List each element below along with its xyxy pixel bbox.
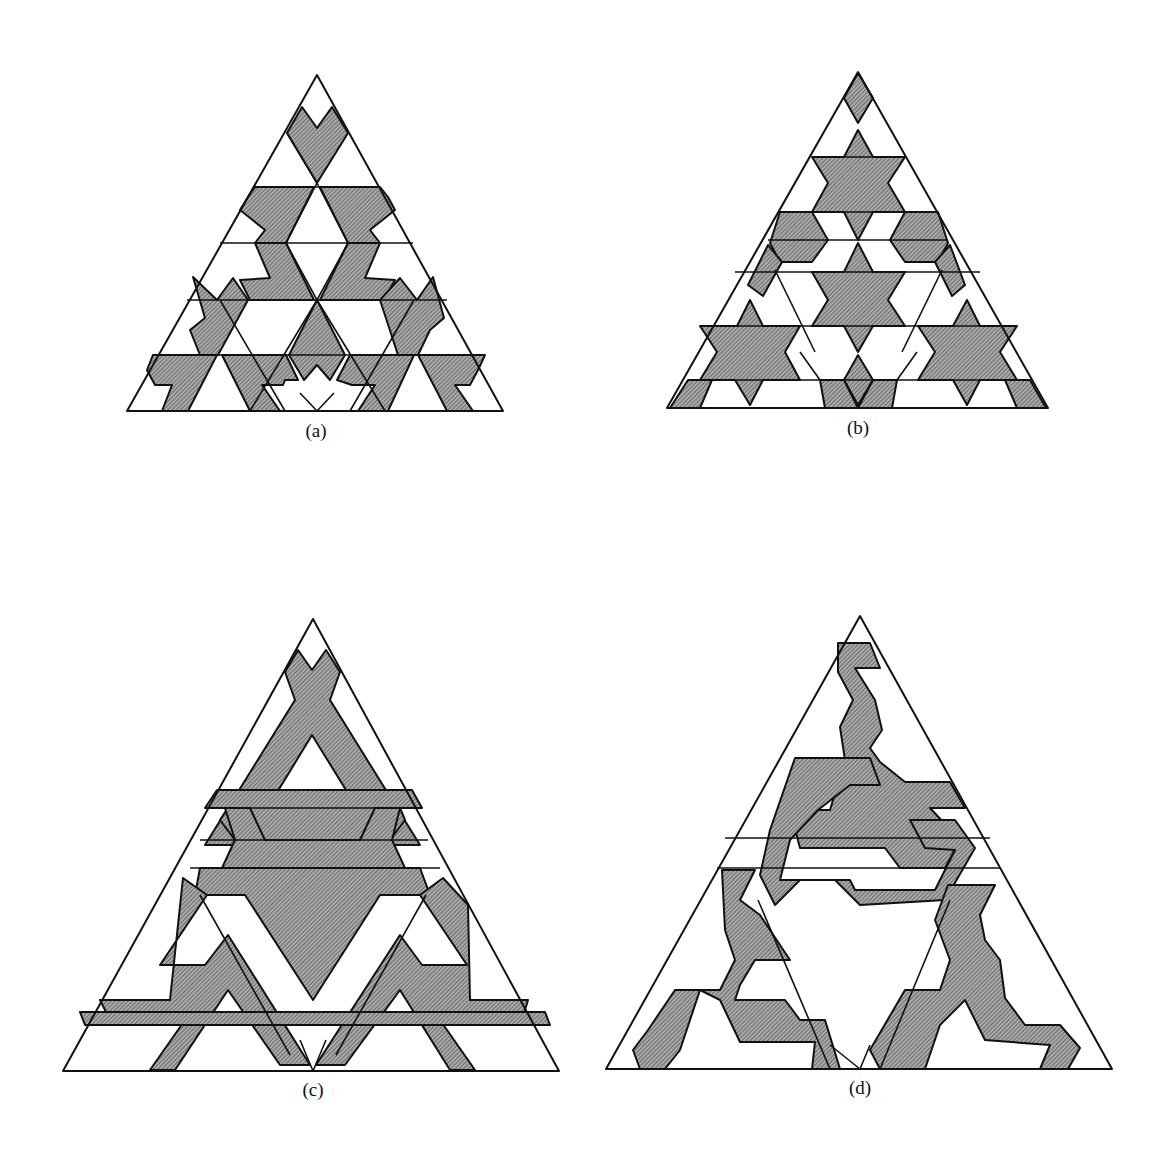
panel-b-label: (b) bbox=[847, 417, 869, 439]
panel-b-diagram bbox=[667, 72, 1048, 408]
panel-c-diagram bbox=[63, 619, 559, 1071]
panel-a-label: (a) bbox=[305, 420, 326, 442]
figure-canvas bbox=[0, 0, 1175, 1154]
panel-c-label: (c) bbox=[302, 1079, 323, 1101]
panel-d-label: (d) bbox=[849, 1077, 871, 1099]
panel-d-diagram bbox=[606, 616, 1112, 1069]
panel-a-diagram bbox=[127, 75, 503, 411]
